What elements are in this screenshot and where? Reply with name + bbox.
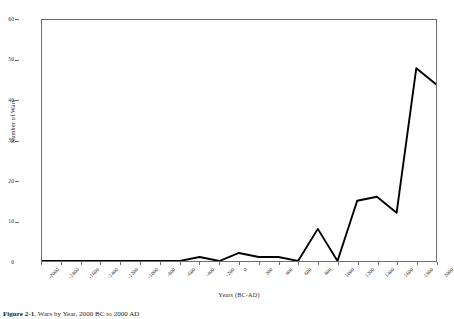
x-tick-mark xyxy=(279,262,280,265)
x-tick-mark xyxy=(61,262,62,265)
x-tick-mark xyxy=(397,262,398,265)
x-tick-mark xyxy=(259,262,260,265)
x-tick-label: -1200 xyxy=(127,267,140,280)
x-tick-label: 1200 xyxy=(364,267,375,278)
data-line-chart xyxy=(42,20,436,261)
series-line-number-of-wars xyxy=(42,68,436,261)
x-tick-mark xyxy=(100,262,101,265)
x-tick-label: -1800 xyxy=(67,267,80,280)
x-tick-mark xyxy=(239,262,240,265)
x-tick-label: -1400 xyxy=(107,267,120,280)
x-tick-mark xyxy=(81,262,82,265)
x-tick-label: -1000 xyxy=(147,267,160,280)
x-tick-label: -800 xyxy=(166,267,177,278)
x-tick-label: 2000 xyxy=(443,267,454,278)
x-tick-mark xyxy=(298,262,299,265)
x-axis-title: Years (BC-AD) xyxy=(41,291,437,298)
y-axis-title: Number of Wars xyxy=(9,77,16,167)
y-tick-mark xyxy=(15,181,19,182)
x-tick-mark xyxy=(160,262,161,265)
x-tick-label: -1600 xyxy=(87,267,100,280)
y-tick-label: 60 xyxy=(8,17,14,22)
x-tick-label: 1800 xyxy=(423,267,434,278)
x-tick-mark xyxy=(41,262,42,265)
plot-area xyxy=(41,19,437,262)
y-tick-label: 40 xyxy=(8,98,14,103)
x-tick-mark xyxy=(338,262,339,265)
x-tick-label: 1600 xyxy=(404,267,415,278)
y-tick-label: 30 xyxy=(8,138,14,143)
y-tick-mark xyxy=(15,19,19,20)
y-tick-label: 0 xyxy=(11,260,14,265)
x-tick-mark xyxy=(120,262,121,265)
y-tick-mark xyxy=(15,60,19,61)
x-tick-mark xyxy=(417,262,418,265)
x-tick-label: 1400 xyxy=(384,267,395,278)
x-tick-mark xyxy=(199,262,200,265)
x-tick-mark xyxy=(437,262,438,265)
y-tick-label: 20 xyxy=(8,179,14,184)
x-tick-mark xyxy=(318,262,319,265)
y-axis: Number of Wars 60 50 40 30 20 10 0 xyxy=(0,0,41,282)
y-tick-mark xyxy=(15,222,19,223)
figure-caption-label: Figure 2-1. xyxy=(3,310,36,318)
x-tick-label: 800 xyxy=(324,267,333,276)
x-tick-label: 200 xyxy=(264,267,273,276)
y-tick-mark xyxy=(15,141,19,142)
y-tick-mark xyxy=(15,100,19,101)
x-tick-mark xyxy=(219,262,220,265)
x-tick-mark xyxy=(180,262,181,265)
x-tick-label: 600 xyxy=(304,267,313,276)
x-tick-label: 400 xyxy=(284,267,293,276)
y-tick-label: 50 xyxy=(8,57,14,62)
x-tick-label: 1000 xyxy=(344,267,355,278)
figure-caption: Figure 2-1. Wars by Year, 2000 BC to 200… xyxy=(3,310,450,319)
figure-caption-text: Wars by Year, 2000 BC to 2000 AD xyxy=(38,310,140,318)
x-tick-label: -400 xyxy=(205,267,216,278)
x-tick-mark xyxy=(358,262,359,265)
x-tick-label: -200 xyxy=(225,267,236,278)
y-tick-label: 10 xyxy=(8,219,14,224)
x-tick-mark xyxy=(140,262,141,265)
x-tick-mark xyxy=(378,262,379,265)
x-tick-label: -2000 xyxy=(48,267,61,280)
x-tick-label: 0 xyxy=(243,267,249,273)
x-tick-label: -600 xyxy=(185,267,196,278)
